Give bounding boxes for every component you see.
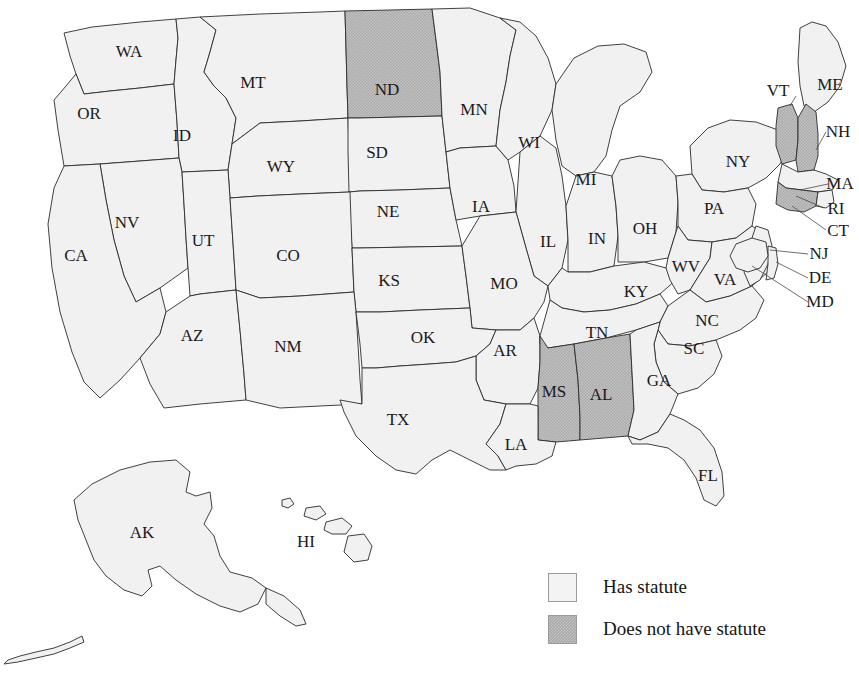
state-label-HI: HI [297, 532, 315, 551]
state-label-PA: PA [704, 199, 725, 218]
state-label-OR: OR [77, 104, 101, 123]
state-label-NE: NE [377, 202, 400, 221]
state-label-NJ: NJ [810, 244, 829, 263]
state-label-NC: NC [695, 311, 719, 330]
state-label-SD: SD [366, 143, 388, 162]
state-label-UT: UT [192, 231, 215, 250]
state-HI-kauai [282, 498, 294, 508]
state-HI-oahu [304, 506, 326, 520]
state-label-AK: AK [130, 523, 155, 542]
state-label-MN: MN [460, 100, 487, 119]
state-label-LA: LA [505, 435, 528, 454]
state-HI-bigisland [344, 534, 372, 562]
state-label-AR: AR [493, 341, 517, 360]
state-label-IA: IA [472, 197, 491, 216]
state-label-VT: VT [767, 81, 790, 100]
us-statute-map: WAORIDMTWYNDSDNEMNIAWIMIILINOHNYPANVCAUT… [0, 0, 859, 673]
state-label-MD: MD [806, 292, 833, 311]
state-label-NH: NH [826, 122, 851, 141]
state-label-NV: NV [115, 213, 140, 232]
state-label-ND: ND [375, 80, 400, 99]
state-label-MA: MA [826, 174, 854, 193]
state-label-VA: VA [714, 270, 737, 289]
state-DE[interactable] [766, 246, 778, 280]
state-label-WY: WY [267, 157, 295, 176]
state-label-AZ: AZ [181, 326, 204, 345]
legend-row-hasnot: Does not have statute [548, 608, 848, 650]
state-label-MS: MS [542, 382, 567, 401]
legend-label-does-not-have-statute: Does not have statute [603, 618, 766, 640]
state-label-DE: DE [809, 268, 832, 287]
legend-row-has: Has statute [548, 566, 848, 608]
legend: Has statute Does not have statute [548, 566, 848, 650]
legend-swatch-has-statute [548, 573, 577, 602]
state-label-ME: ME [817, 75, 843, 94]
state-label-ID: ID [173, 126, 191, 145]
state-label-WA: WA [116, 42, 143, 61]
state-label-KY: KY [624, 282, 649, 301]
state-label-MT: MT [240, 73, 266, 92]
state-OH[interactable] [612, 156, 678, 262]
state-label-WI: WI [518, 133, 540, 152]
state-label-OK: OK [411, 328, 436, 347]
state-label-TN: TN [586, 323, 609, 342]
legend-label-has-statute: Has statute [603, 576, 687, 598]
state-label-MI: MI [576, 170, 597, 189]
state-NE[interactable] [349, 188, 462, 248]
state-label-WV: WV [672, 257, 701, 276]
state-label-SC: SC [684, 339, 705, 358]
state-label-MO: MO [490, 274, 517, 293]
legend-swatch-does-not-have-statute [548, 615, 577, 644]
state-label-FL: FL [698, 466, 718, 485]
state-label-RI: RI [828, 199, 845, 218]
state-SD[interactable] [348, 116, 450, 192]
state-HI-maui [324, 518, 352, 534]
state-label-OH: OH [633, 219, 658, 238]
state-ME[interactable] [798, 22, 846, 112]
state-label-NM: NM [274, 337, 301, 356]
state-label-NY: NY [726, 152, 751, 171]
state-label-GA: GA [647, 371, 672, 390]
state-ND[interactable] [345, 9, 442, 118]
state-AK-panhandle [266, 588, 306, 626]
state-label-TX: TX [387, 410, 410, 429]
state-label-IL: IL [540, 232, 556, 251]
state-label-IN: IN [588, 229, 606, 248]
state-NH[interactable] [796, 104, 818, 172]
state-KS[interactable] [352, 246, 470, 312]
state-label-AL: AL [590, 385, 613, 404]
state-label-KS: KS [378, 271, 400, 290]
state-label-CO: CO [276, 246, 300, 265]
state-AK[interactable] [74, 460, 266, 612]
state-label-CA: CA [64, 246, 88, 265]
state-label-CT: CT [827, 221, 849, 240]
state-AK-aleutians [4, 636, 84, 664]
state-VT[interactable] [776, 104, 798, 164]
